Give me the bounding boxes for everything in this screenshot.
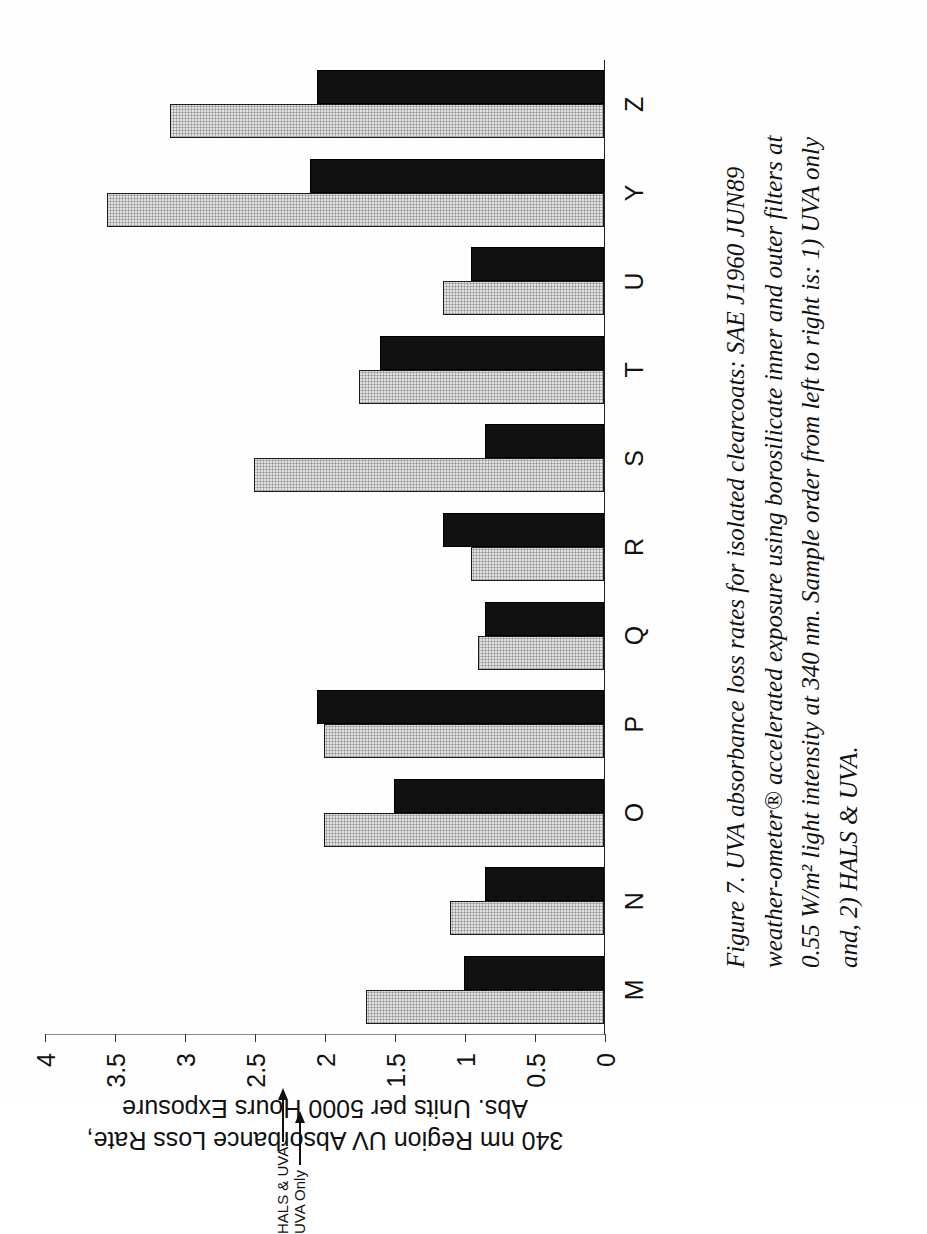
caption-line-2: weather-ometer® accelerated exposure usi…: [755, 0, 793, 968]
category-label-M: M: [620, 979, 649, 1000]
category-label-Q: Q: [620, 626, 649, 645]
value-axis-tick-label: 0: [592, 1053, 621, 1067]
value-axis-tick: 1.5: [395, 1034, 396, 1042]
plot-area: 00.511.522.533.54 MNOPQRSTUYZ HALS & UVA…: [45, 60, 605, 1035]
bar-O-uva-only: [324, 813, 604, 847]
value-axis-tick: 4: [45, 1034, 46, 1042]
arrow-right-icon: [278, 1088, 288, 1142]
bar-Q-uva-only: [478, 636, 604, 670]
value-axis-tick-label: 3.5: [102, 1053, 131, 1088]
value-axis-tick: 3.5: [115, 1034, 116, 1042]
value-axis-tick: 2.5: [255, 1034, 256, 1042]
bar-U-hals-uva: [471, 247, 604, 281]
figure-caption: Figure 7. UVA absorbance loss rates for …: [717, 0, 867, 1010]
caption-line-1: Figure 7. UVA absorbance loss rates for …: [717, 0, 755, 968]
bar-group-P: P: [45, 680, 604, 769]
bar-Q-hals-uva: [485, 602, 604, 636]
value-axis-title-line2: Abs. Units per 5000 Hours Exposure: [45, 1093, 605, 1125]
bar-R-uva-only: [471, 547, 604, 581]
category-label-O: O: [620, 803, 649, 822]
category-label-T: T: [620, 362, 649, 377]
bar-Y-hals-uva: [310, 159, 604, 193]
value-axis-title: 340 nm Region UV Absorbance Loss Rate, A…: [45, 1093, 605, 1157]
category-label-P: P: [620, 716, 649, 733]
bar-group-Y: Y: [45, 149, 604, 238]
bar-O-hals-uva: [394, 779, 604, 813]
caption-line-4: and, 2) HALS & UVA.: [830, 0, 868, 968]
caption-line-3: 0.55 W/m² light intensity at 340 nm. Sam…: [792, 0, 830, 968]
bar-group-O: O: [45, 768, 604, 857]
arrow-right-icon: [295, 1111, 305, 1165]
bar-P-hals-uva: [317, 690, 604, 724]
annotation-hals-uva-label: HALS & UVA: [274, 1147, 291, 1234]
value-axis-tick-label: 4: [32, 1053, 61, 1067]
bar-R-hals-uva: [443, 513, 604, 547]
bar-S-uva-only: [254, 458, 604, 492]
value-axis-tick-label: 0.5: [522, 1053, 551, 1088]
bar-M-hals-uva: [464, 956, 604, 990]
category-label-Y: Y: [620, 184, 649, 201]
bar-T-uva-only: [359, 370, 604, 404]
category-label-S: S: [620, 450, 649, 467]
value-axis-tick-label: 1.5: [382, 1053, 411, 1088]
bar-groups: MNOPQRSTUYZ: [45, 60, 604, 1034]
bar-group-S: S: [45, 414, 604, 503]
value-axis-tick: 0.5: [535, 1034, 536, 1042]
bar-S-hals-uva: [485, 424, 604, 458]
category-label-R: R: [620, 538, 649, 556]
bar-N-hals-uva: [485, 867, 604, 901]
annotation-uva-only: UVA Only: [291, 1088, 308, 1234]
value-axis-tick: 0: [605, 1034, 606, 1042]
value-axis-title-line1: 340 nm Region UV Absorbance Loss Rate,: [45, 1125, 605, 1157]
category-label-N: N: [620, 892, 649, 910]
bar-Z-hals-uva: [317, 70, 604, 104]
bar-group-N: N: [45, 857, 604, 946]
value-axis-tick-label: 2.5: [242, 1053, 271, 1088]
value-axis-tick-label: 1: [452, 1053, 481, 1067]
bar-P-uva-only: [324, 724, 604, 758]
value-axis-tick-label: 2: [312, 1053, 341, 1067]
category-label-Z: Z: [620, 97, 649, 112]
bar-U-uva-only: [443, 281, 604, 315]
bar-group-U: U: [45, 237, 604, 326]
bar-group-T: T: [45, 326, 604, 415]
bar-group-Z: Z: [45, 60, 604, 149]
bar-T-hals-uva: [380, 336, 604, 370]
bar-M-uva-only: [366, 990, 604, 1024]
value-axis-tick-label: 3: [172, 1053, 201, 1067]
series-annotations: HALS & UVA UVA Only: [274, 1088, 308, 1234]
bar-group-M: M: [45, 945, 604, 1034]
annotation-uva-only-label: UVA Only: [291, 1170, 308, 1234]
annotation-hals-uva: HALS & UVA: [274, 1088, 291, 1234]
bar-N-uva-only: [450, 901, 604, 935]
value-axis-tick: 1: [465, 1034, 466, 1042]
bar-Z-uva-only: [170, 104, 604, 138]
bar-Y-uva-only: [107, 193, 604, 227]
value-axis-tick: 3: [185, 1034, 186, 1042]
bar-group-R: R: [45, 503, 604, 592]
value-axis-tick: 2: [325, 1034, 326, 1042]
bar-group-Q: Q: [45, 591, 604, 680]
category-label-U: U: [620, 272, 649, 290]
